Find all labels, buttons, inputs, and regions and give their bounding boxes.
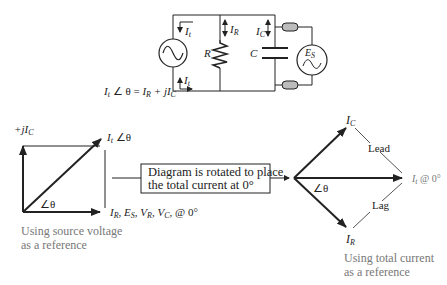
resistor-label: R [203, 47, 211, 59]
svg-text:IR: IR [229, 23, 239, 37]
current-equation: It ∠ θ = IR + jIC [103, 85, 177, 99]
coax-connector-bottom [275, 75, 312, 89]
left-caption-line2: as a reference [21, 238, 87, 252]
current-arrow-ir: IR [225, 20, 239, 37]
total-current-label: It ∠θ [106, 131, 131, 145]
current-arrow-it-top: It [180, 22, 193, 39]
resistor [213, 40, 227, 68]
right-phasor-diagram: IC IR Lead Lag ∠θ It @ 0° Using total cu… [294, 113, 441, 279]
capacitor [262, 48, 288, 58]
ac-source-left [159, 39, 187, 67]
svg-text:It: It [184, 25, 192, 39]
lead-label: Lead [368, 142, 390, 154]
note-line1: Diagram is rotated to place [148, 165, 284, 179]
right-caption-line1: Using total current [344, 251, 435, 265]
ac-source-es: ES [297, 45, 327, 75]
current-arrow-it-bottom: It [180, 74, 192, 89]
left-caption-line1: Using source voltage [21, 224, 122, 238]
phasor-diagram-figure: ES It It IR IC R C It ∠ θ = IR + jIC +jI… [0, 0, 447, 285]
angle-theta-label: ∠θ [313, 182, 328, 194]
y-axis-label: +jIC [14, 123, 34, 137]
current-arrow-ic: IC [255, 20, 268, 39]
rotation-note: Diagram is rotated to place the total cu… [112, 164, 289, 193]
total-current-reference-label: It @ 0° [411, 173, 441, 186]
ir-label: IR [345, 232, 355, 247]
angle-theta-label: ∠θ [40, 198, 55, 210]
coax-connector-top [275, 23, 312, 45]
capacitor-label: C [250, 47, 258, 59]
svg-text:IC: IC [255, 25, 266, 39]
note-line2: the total current at 0° [148, 178, 254, 192]
right-caption-line2: as a reference [344, 265, 410, 279]
svg-text:It: It [183, 74, 191, 88]
reference-axis-label: IR, ES, VR, VC, @ 0° [109, 206, 198, 220]
ic-label: IC [345, 113, 356, 128]
lag-label: Lag [372, 199, 390, 211]
